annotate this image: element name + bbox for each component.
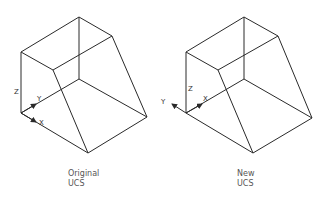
caption-line1: Original <box>68 169 99 178</box>
x-axis-arrow <box>21 113 36 122</box>
ucs-diagram: Z Y X Original UCS Z Y X <box>0 0 327 201</box>
z-axis-label: Z <box>188 85 193 93</box>
caption-line2: UCS <box>68 179 85 188</box>
z-axis-label: Z <box>14 88 19 96</box>
caption-line2: UCS <box>237 179 254 188</box>
ucs-icon: Z Y X <box>14 88 44 127</box>
x-axis-label: X <box>203 95 208 103</box>
figure-new-ucs: Z Y X New UCS <box>160 17 312 188</box>
ucs-icon: Z Y X <box>160 85 208 113</box>
x-axis-arrow <box>186 104 202 113</box>
y-axis-arrow <box>172 104 186 113</box>
y-axis-label: Y <box>36 95 42 103</box>
caption-line1: New <box>237 169 255 178</box>
x-axis-label: X <box>39 119 44 127</box>
figure-original-ucs: Z Y X Original UCS <box>14 17 147 188</box>
y-axis-label: Y <box>160 98 166 106</box>
wedge-solid <box>21 17 147 153</box>
wedge-solid <box>186 17 312 153</box>
y-axis-arrow <box>21 104 36 113</box>
